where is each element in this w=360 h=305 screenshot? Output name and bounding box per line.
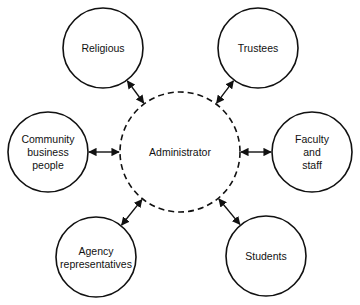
relationship-diagram: Administrator ReligiousTrusteesCommunity… <box>0 0 360 305</box>
node-agency-representatives: Agencyrepresentatives <box>56 217 136 297</box>
node-label: Community <box>21 133 75 145</box>
node-faculty-and-staff: Facultyandstaff <box>272 112 352 192</box>
node-label: Religious <box>81 42 124 54</box>
node-trustees: Trustees <box>218 8 298 88</box>
node-label: Agency <box>78 245 114 257</box>
node-label: Faculty <box>295 133 330 145</box>
node-students: Students <box>226 216 306 296</box>
node-community-business-people: Communitybusinesspeople <box>8 112 88 192</box>
node-label: representatives <box>60 258 132 270</box>
center-node-administrator: Administrator <box>120 92 240 212</box>
double-arrow-trustees <box>217 81 234 103</box>
node-label: Students <box>245 250 286 262</box>
node-label: staff <box>302 159 322 171</box>
node-label: Trustees <box>238 42 278 54</box>
node-label: people <box>32 159 64 171</box>
node-label: business <box>27 146 68 158</box>
node-religious: Religious <box>63 8 143 88</box>
double-arrow-religious <box>127 81 143 103</box>
node-label: and <box>303 146 321 158</box>
double-arrow-agency-representatives <box>122 200 142 225</box>
center-label: Administrator <box>149 146 211 158</box>
double-arrow-students <box>219 199 240 224</box>
